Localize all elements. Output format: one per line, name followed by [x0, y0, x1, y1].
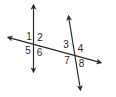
angle-label-4: 4	[78, 44, 84, 54]
angle-label-2: 2	[37, 33, 43, 43]
transversal	[8, 37, 101, 62]
parallel-lines-transversal-diagram	[0, 0, 116, 97]
angle-label-1: 1	[26, 32, 32, 42]
lines-group	[8, 5, 101, 90]
angle-label-7: 7	[64, 56, 70, 66]
angle-label-6: 6	[37, 48, 43, 58]
angle-label-3: 3	[63, 40, 69, 50]
angle-label-5: 5	[25, 46, 31, 56]
angle-label-8: 8	[79, 59, 85, 69]
